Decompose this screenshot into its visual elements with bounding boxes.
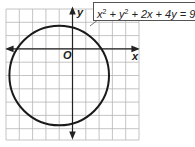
eq-y: + y xyxy=(106,8,124,20)
x-axis-label: x xyxy=(132,50,138,62)
eq-rest: + 2x + 4y = 9 xyxy=(128,8,195,20)
y-axis-label: y xyxy=(77,6,83,18)
coordinate-plane xyxy=(0,0,195,147)
origin-label: O xyxy=(63,49,72,61)
equation-label: x2 + y2 + 2x + 4y = 9 xyxy=(93,2,195,21)
